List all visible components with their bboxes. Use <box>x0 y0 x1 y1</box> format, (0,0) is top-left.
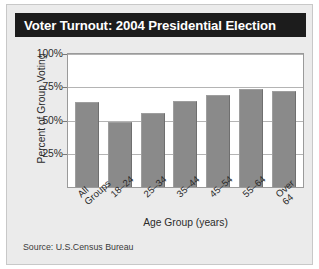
chart-card: Voter Turnout: 2004 Presidential Electio… <box>6 4 313 265</box>
y-tick-label: 75% <box>23 81 63 92</box>
y-tick-label: 50% <box>23 114 63 125</box>
source-note: Source: U.S.Census Bureau <box>23 242 134 252</box>
plot-area <box>67 53 304 188</box>
tick-mark-100 <box>62 54 67 55</box>
chart-title-bar: Voter Turnout: 2004 Presidential Electio… <box>15 13 306 37</box>
tick-mark-75 <box>62 87 67 88</box>
chart-title: Voter Turnout: 2004 Presidential Electio… <box>24 18 276 33</box>
y-tick-label: 100% <box>23 48 63 59</box>
chart-plot-region: Percent of Group Voting 25%50%75%100% Al… <box>15 41 306 231</box>
y-axis-tick-labels: 25%50%75%100% <box>15 41 63 231</box>
x-axis-title: Age Group (years) <box>67 217 304 228</box>
tick-mark-50 <box>62 121 67 122</box>
bar-series <box>68 54 303 187</box>
y-tick-label: 25% <box>23 147 63 158</box>
tick-mark-25 <box>62 154 67 155</box>
bar <box>272 91 296 187</box>
